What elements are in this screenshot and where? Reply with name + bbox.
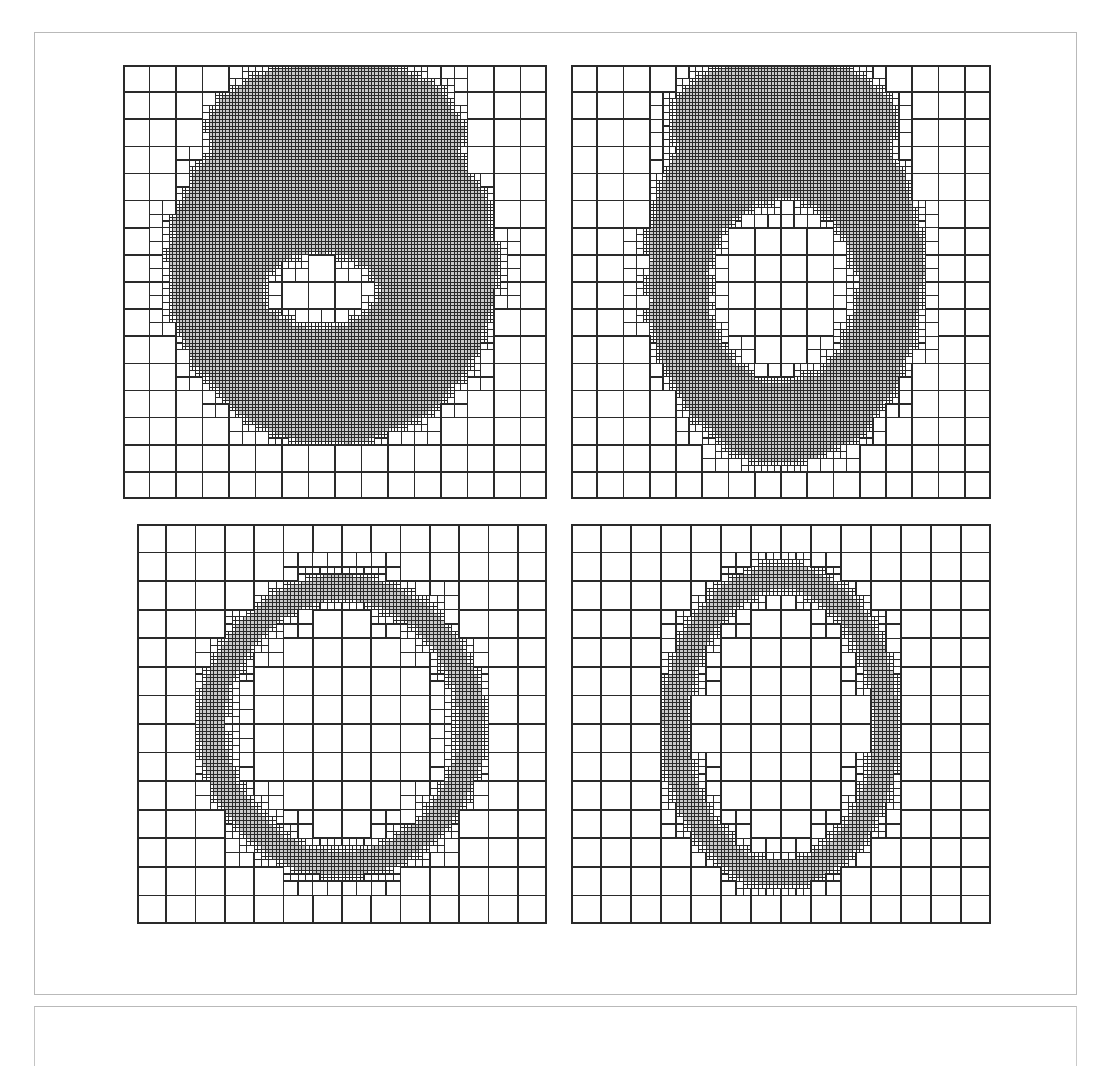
panel-bottom-right [571, 524, 991, 924]
panel-top-right [571, 65, 991, 499]
panel-top-left [123, 65, 547, 499]
panel-bottom-right-canvas [571, 524, 991, 924]
panel-top-right-canvas [571, 65, 991, 499]
panel-bottom-left-canvas [137, 524, 547, 924]
panel-bottom-left [137, 524, 547, 924]
panel-top-left-canvas [123, 65, 547, 499]
